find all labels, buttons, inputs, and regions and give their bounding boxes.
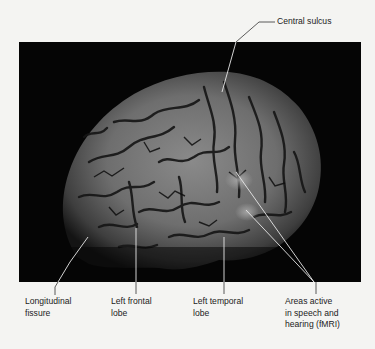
label-left-frontal-lobe: Left frontal lobe [111, 296, 152, 319]
brain-photo [19, 42, 361, 282]
brain-image [19, 42, 361, 282]
label-areas-active-fmri: Areas active in speech and hearing (fMRI… [285, 296, 340, 331]
label-left-temporal-lobe: Left temporal lobe [193, 296, 243, 319]
leader-central-sulcus [236, 22, 275, 42]
label-longitudinal-fissure: Longitudinal fissure [25, 296, 71, 319]
brain-figure: Central sulcus Longitudinal fissure Left… [0, 0, 375, 349]
label-central-sulcus: Central sulcus [277, 16, 331, 28]
